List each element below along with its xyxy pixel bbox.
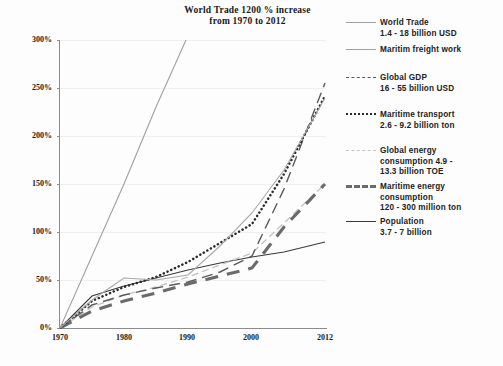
- series-line-population: [60, 242, 325, 328]
- legend-item-global-energy[interactable]: Global energy consumption 4.9 - 13.3 bil…: [346, 146, 501, 182]
- legend-item-global-gdp[interactable]: Global GDP 16 - 55 billion USD: [346, 73, 501, 110]
- legend-item-maritim-freight[interactable]: Maritim freight work: [346, 45, 501, 73]
- legend-value-world-trade: 1.4 - 18 billion USD: [380, 29, 501, 40]
- legend-swatch-population-line-icon: [346, 221, 376, 232]
- legend-swatch-global-gdp-dashed-line-icon: [346, 77, 376, 88]
- legend-item-world-trade[interactable]: World Trade 1.4 - 18 billion USD: [346, 18, 501, 45]
- legend-value-maritime-energy-b: 120 - 300 million ton: [380, 203, 501, 214]
- legend-value-global-gdp: 16 - 55 billion USD: [380, 84, 501, 95]
- series-line-maritime-energy: [60, 184, 325, 328]
- legend-label-maritime-transport: Maritime transport: [380, 110, 455, 119]
- legend-swatch-global-energy-dashed-line-icon: [346, 150, 376, 161]
- legend-value-maritime-energy-a: consumption: [380, 193, 501, 204]
- legend-value-global-energy-a: consumption 4.9 -: [380, 157, 501, 168]
- legend-value-global-energy-b: 13.3 billion TOE: [380, 167, 501, 178]
- chart-legend: World Trade 1.4 - 18 billion USD Maritim…: [346, 18, 501, 241]
- legend-item-maritime-transport[interactable]: Maritime transport 2.6 - 9.2 billion ton: [346, 110, 501, 146]
- chart-container: World Trade 1200 % increase from 1970 to…: [0, 0, 503, 366]
- legend-label-global-gdp: Global GDP: [380, 73, 427, 82]
- legend-label-maritime-energy: Maritime energy: [380, 182, 445, 191]
- legend-swatch-maritime-energy-dashed-line-icon: [346, 185, 376, 198]
- legend-label-world-trade: World Trade: [380, 18, 429, 27]
- legend-value-maritime-transport: 2.6 - 9.2 billion ton: [380, 121, 501, 132]
- series-line-world-trade: [60, 40, 186, 328]
- legend-label-population: Population: [380, 217, 424, 226]
- legend-item-maritime-energy[interactable]: Maritime energy consumption 120 - 300 mi…: [346, 182, 501, 217]
- series-line-global-gdp: [60, 83, 325, 328]
- legend-label-maritim-freight: Maritim freight work: [380, 45, 461, 54]
- legend-label-global-energy: Global energy: [380, 146, 437, 155]
- legend-swatch-world-trade-line-icon: [346, 22, 376, 33]
- series-line-global-energy: [60, 184, 325, 328]
- legend-swatch-maritime-transport-dotted-line-icon: [346, 113, 376, 125]
- legend-value-population: 3.7 - 7 billion: [380, 228, 501, 239]
- legend-swatch-maritim-freight-line-icon: [346, 49, 376, 60]
- legend-item-population[interactable]: Population 3.7 - 7 billion: [346, 217, 501, 241]
